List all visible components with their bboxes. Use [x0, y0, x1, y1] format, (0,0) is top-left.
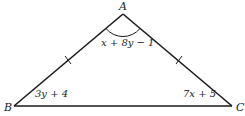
- angle-label-b: 3y + 4: [35, 89, 68, 99]
- angle-arc-a: [106, 29, 140, 37]
- triangle-diagram: A B C x + 8y − 1 3y + 4 7x + 5: [0, 0, 245, 116]
- vertex-label-a: A: [119, 1, 127, 12]
- angle-label-a: x + 8y − 1: [101, 38, 155, 48]
- vertex-label-b: B: [4, 102, 12, 113]
- angle-label-c: 7x + 5: [183, 89, 216, 99]
- vertex-label-c: C: [236, 102, 244, 113]
